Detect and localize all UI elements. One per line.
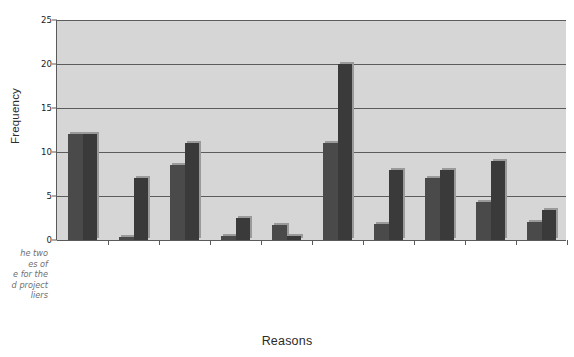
bar	[221, 236, 236, 240]
y-axis-tick-label: 15	[41, 103, 52, 113]
bar	[272, 225, 287, 240]
bar	[287, 236, 302, 240]
plot-area: 0510152025	[56, 20, 566, 240]
bar-face	[542, 210, 557, 240]
bar-face	[374, 224, 389, 240]
y-axis-tick-mark	[52, 196, 57, 197]
bar-face	[425, 178, 440, 240]
x-axis-tick-mark	[108, 240, 109, 245]
y-axis-title: Frequency	[9, 66, 21, 166]
bar-face	[527, 222, 542, 240]
x-axis-tick-mark	[516, 240, 517, 245]
bar-face	[476, 202, 491, 240]
x-axis-tick-mark	[363, 240, 364, 245]
figure-caption: he two es of e for the d project liers	[0, 248, 48, 301]
x-axis-tick-mark	[567, 240, 568, 245]
bar-face	[185, 143, 200, 240]
bar-face	[323, 143, 338, 240]
bar	[389, 170, 404, 240]
x-axis-tick-mark	[159, 240, 160, 245]
x-axis-tick-mark	[465, 240, 466, 245]
bar-face	[236, 218, 251, 240]
x-axis-tick-mark	[312, 240, 313, 245]
bar	[374, 224, 389, 240]
bar	[527, 222, 542, 240]
bar	[425, 178, 440, 240]
y-axis-tick-label: 25	[41, 15, 52, 25]
x-axis-tick-mark	[210, 240, 211, 245]
bar-face	[83, 134, 98, 240]
bar-face	[134, 178, 149, 240]
x-axis-tick-mark	[261, 240, 262, 245]
x-axis-title: Reasons	[0, 334, 574, 348]
gridline	[57, 20, 566, 21]
bar-face	[170, 165, 185, 240]
bar-face	[389, 170, 404, 240]
bar	[542, 210, 557, 240]
bar-face	[287, 236, 302, 240]
x-axis-tick-mark	[414, 240, 415, 245]
y-axis-tick-mark	[52, 240, 57, 241]
bar-face	[440, 170, 455, 240]
bar	[170, 165, 185, 240]
y-axis-tick-mark	[52, 20, 57, 21]
bar	[119, 237, 134, 240]
y-axis-tick-mark	[52, 152, 57, 153]
y-axis-tick-label: 20	[41, 59, 52, 69]
bar	[338, 64, 353, 240]
bar	[134, 178, 149, 240]
bar-face	[119, 237, 134, 240]
bar-face	[68, 134, 83, 240]
bar	[68, 134, 83, 240]
bar	[83, 134, 98, 240]
bar-face	[491, 161, 506, 240]
bar	[476, 202, 491, 240]
bar-face	[221, 236, 236, 240]
y-axis-tick-label: 10	[41, 147, 52, 157]
gridline	[57, 108, 566, 109]
bar-face	[338, 64, 353, 240]
bar	[236, 218, 251, 240]
bar	[323, 143, 338, 240]
y-axis-tick-mark	[52, 108, 57, 109]
bar	[185, 143, 200, 240]
figure: he two es of e for the d project liers F…	[0, 0, 574, 357]
bar	[440, 170, 455, 240]
bar	[491, 161, 506, 240]
gridline	[57, 152, 566, 153]
bar-face	[272, 225, 287, 240]
gridline	[57, 64, 566, 65]
y-axis-tick-mark	[52, 64, 57, 65]
